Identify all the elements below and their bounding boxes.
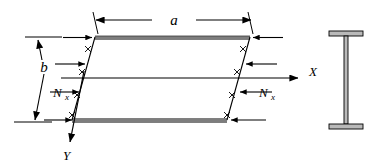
plate-top-edge-fill xyxy=(95,37,250,39)
i-beam-top-flange xyxy=(329,31,363,36)
left-edge-hatch-marks xyxy=(69,46,91,118)
right-edge-hatch-marks xyxy=(224,46,246,118)
i-beam-bottom-flange xyxy=(329,124,363,129)
x-axis-group: X xyxy=(61,64,318,79)
load-label-left: N xyxy=(52,85,63,100)
dimension-b-down-arrow xyxy=(35,74,44,120)
x-axis-label: X xyxy=(308,64,318,79)
load-label-left-subscript: x xyxy=(64,92,69,102)
i-beam-web xyxy=(344,36,348,124)
left-load-arrows xyxy=(44,38,92,121)
dimension-a-left-extension xyxy=(93,12,98,34)
plate-body xyxy=(72,36,250,122)
y-axis-label: Y xyxy=(63,148,72,163)
dimension-b-up-arrow xyxy=(38,40,42,60)
plate-load-diagram: a b X xyxy=(0,0,371,166)
dimension-a-group: a xyxy=(93,12,253,34)
right-load-arrows xyxy=(224,38,283,121)
plate-bottom-edge-fill xyxy=(72,119,227,122)
load-label-right-subscript: x xyxy=(270,92,275,102)
dimension-a-label: a xyxy=(170,12,178,28)
load-label-right-group: N x xyxy=(258,85,275,102)
dimension-a-right-extension xyxy=(248,12,253,34)
load-label-right: N xyxy=(258,85,269,100)
dimension-b-group: b xyxy=(14,37,62,122)
load-label-left-group: N x xyxy=(52,85,69,102)
figure-root: a b X xyxy=(0,0,371,166)
dimension-b-label: b xyxy=(40,59,48,75)
y-axis-line xyxy=(70,71,84,142)
i-beam-cross-section xyxy=(329,31,363,129)
